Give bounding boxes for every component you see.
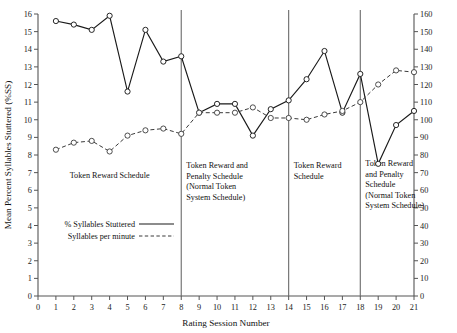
data-point-marker xyxy=(411,108,416,113)
y-tick-label-left: 0 xyxy=(28,292,32,301)
y-tick-label-left: 5 xyxy=(28,204,32,213)
data-point-marker xyxy=(340,108,345,113)
y-tick-label-right: 10 xyxy=(420,274,428,283)
data-point-marker xyxy=(322,112,327,117)
y-tick-label-right: 150 xyxy=(420,28,432,37)
data-point-marker xyxy=(89,138,94,143)
phase-labels: Token Reward ScheduleToken Reward andPen… xyxy=(70,159,425,210)
y-tick-label-right: 110 xyxy=(420,98,432,107)
legend: % Syllables StutteredSyllables per minut… xyxy=(65,220,175,241)
data-point-marker xyxy=(125,133,130,138)
data-point-marker xyxy=(358,100,363,105)
data-series-group xyxy=(53,13,416,166)
data-point-marker xyxy=(376,161,381,166)
data-point-marker xyxy=(107,13,112,18)
phase-label-line: Token Reward Schedule xyxy=(70,171,150,180)
y-tick-label-left: 12 xyxy=(24,81,32,90)
x-tick-label: 10 xyxy=(213,303,221,312)
y-tick-label-left: 16 xyxy=(24,10,32,19)
x-tick-label: 15 xyxy=(302,303,310,312)
data-point-marker xyxy=(358,71,363,76)
data-point-marker xyxy=(232,110,237,115)
y-tick-label-right: 100 xyxy=(420,116,432,125)
data-point-marker xyxy=(268,107,273,112)
phase-label-line: System Schedule) xyxy=(365,201,424,210)
x-tick-label: 18 xyxy=(356,303,364,312)
phase-label-line: Token Reward xyxy=(365,159,413,168)
data-point-marker xyxy=(197,110,202,115)
phase-label-line: and Penalty xyxy=(365,170,404,179)
y-tick-label-left: 14 xyxy=(24,45,33,54)
x-tick-label: 9 xyxy=(197,303,201,312)
data-point-marker xyxy=(376,82,381,87)
y-tick-label-right: 130 xyxy=(420,63,432,72)
x-tick-label: 4 xyxy=(108,303,113,312)
x-tick-label: 6 xyxy=(143,303,147,312)
y-tick-label-right: 0 xyxy=(420,292,424,301)
phase-label-line: Token Reward and xyxy=(186,161,248,170)
data-point-marker xyxy=(214,110,219,115)
data-point-marker xyxy=(232,101,237,106)
phase-label-line: Schedule xyxy=(365,180,395,189)
y-tick-label-right: 60 xyxy=(420,186,428,195)
x-tick-label: 2 xyxy=(72,303,76,312)
series-1 xyxy=(53,13,416,166)
y-tick-label-right: 20 xyxy=(420,257,428,266)
y-tick-label-right: 40 xyxy=(420,222,428,231)
x-tick-label: 12 xyxy=(249,303,257,312)
y-tick-label-left: 9 xyxy=(28,133,32,142)
data-point-marker xyxy=(268,115,273,120)
phase-label-line: (Normal Token xyxy=(365,191,415,200)
x-tick-label: 17 xyxy=(338,303,346,312)
phase-label-line: Schedule xyxy=(294,172,324,181)
x-tick-label: 19 xyxy=(374,303,382,312)
phase-label-line: System Schedule) xyxy=(186,193,245,202)
y-tick-label-left: 15 xyxy=(24,28,32,37)
data-point-marker xyxy=(125,89,130,94)
data-point-marker xyxy=(107,149,112,154)
data-point-marker xyxy=(179,54,184,59)
stuttering-line-chart: 0123456789101112131415160102030405060708… xyxy=(0,0,457,333)
data-point-marker xyxy=(393,122,398,127)
x-tick-label: 0 xyxy=(36,303,40,312)
x-tick-label: 13 xyxy=(267,303,275,312)
legend-label: % Syllables Stuttered xyxy=(65,220,136,229)
phase-label-line: Token Reward xyxy=(294,161,342,170)
data-point-marker xyxy=(250,133,255,138)
y-tick-label-left: 4 xyxy=(28,222,33,231)
data-point-marker xyxy=(143,27,148,32)
x-tick-label: 7 xyxy=(161,303,165,312)
data-point-marker xyxy=(161,59,166,64)
y-tick-label-left: 13 xyxy=(24,63,32,72)
data-point-marker xyxy=(53,18,58,23)
chart-container: 0123456789101112131415160102030405060708… xyxy=(0,0,457,333)
y-tick-label-right: 70 xyxy=(420,169,428,178)
x-tick-label: 8 xyxy=(179,303,183,312)
y-tick-label-right: 160 xyxy=(420,10,432,19)
data-point-marker xyxy=(411,70,416,75)
x-tick-label: 3 xyxy=(90,303,94,312)
x-tick-label: 11 xyxy=(231,303,239,312)
data-point-marker xyxy=(322,48,327,53)
data-point-marker xyxy=(250,105,255,110)
x-tick-label: 21 xyxy=(410,303,418,312)
y-tick-label-right: 140 xyxy=(420,45,432,54)
data-point-marker xyxy=(53,147,58,152)
legend-label: Syllables per minute xyxy=(68,232,136,241)
y-tick-label-left: 11 xyxy=(24,98,32,107)
x-tick-label: 1 xyxy=(54,303,58,312)
y-tick-label-right: 30 xyxy=(420,239,428,248)
data-point-marker xyxy=(161,126,166,131)
y-tick-label-left: 3 xyxy=(28,239,32,248)
phase-dividers xyxy=(181,10,360,296)
data-point-marker xyxy=(71,140,76,145)
data-point-marker xyxy=(393,68,398,73)
phase-label-line: Penalty Schedule xyxy=(186,172,243,181)
y-tick-label-right: 80 xyxy=(420,151,428,160)
data-point-marker xyxy=(214,101,219,106)
data-point-marker xyxy=(71,22,76,27)
data-point-marker xyxy=(304,117,309,122)
y-tick-label-left: 2 xyxy=(28,257,32,266)
y-tick-label-left: 8 xyxy=(28,151,32,160)
y-tick-label-left: 7 xyxy=(28,169,32,178)
